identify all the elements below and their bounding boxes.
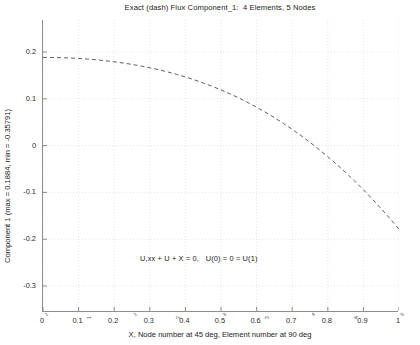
page-title: Exact (dash) Flux Component_1: 4 Element… (42, 3, 398, 12)
equation-annotation: U,xx + U + X = 0, U(0) = 0 = U(1) (140, 254, 258, 263)
x-tick-label: 0.4 (169, 316, 199, 325)
gridlines-vertical (43, 20, 399, 311)
x-tick-label: 0.2 (98, 316, 128, 325)
gridlines-horizontal (43, 52, 399, 286)
figure-canvas: Exact (dash) Flux Component_1: 4 Element… (0, 0, 420, 345)
x-tick-label: 1 (383, 316, 413, 325)
element-number-marker: 2 (175, 316, 181, 319)
x-tick-label: 0 (27, 316, 57, 325)
tick-marks-x (43, 307, 399, 311)
y-axis-label: Component 1 (max = 0.1884, min = -0.3579… (2, 40, 14, 332)
x-tick-label: 0.9 (347, 316, 377, 325)
x-axis-label: X, Node number at 45 deg, Element number… (42, 330, 398, 339)
plot-svg (43, 20, 399, 312)
plot-area (42, 20, 398, 312)
x-tick-label: 0.3 (134, 316, 164, 325)
x-tick-label: 0.8 (312, 316, 342, 325)
tick-marks-y (43, 52, 47, 286)
element-number-marker: 1 (86, 316, 92, 319)
element-number-marker: 4 (353, 316, 359, 319)
y-axis-label-wrapper: Component 1 (max = 0.1884, min = -0.3579… (2, 20, 14, 312)
element-number-marker: 3 (264, 316, 270, 319)
x-tick-label: 0.5 (205, 316, 235, 325)
x-tick-label: 0.7 (276, 316, 306, 325)
